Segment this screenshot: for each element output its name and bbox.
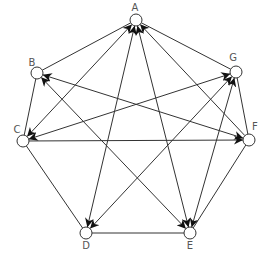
- edges-layer: [24, 23, 248, 233]
- node-circle: [31, 67, 43, 79]
- edge-c-to-f: [29, 140, 243, 141]
- node-circle: [80, 227, 92, 239]
- node-label: D: [82, 240, 90, 251]
- graph-diagram: ABCDEFG: [0, 0, 271, 260]
- node-circle: [184, 227, 196, 239]
- edge-b-e-bidirectional: [41, 77, 186, 228]
- edge-g-a: [141, 23, 230, 69]
- node-b: B: [29, 57, 43, 79]
- nodes-layer: ABCDEFG: [14, 2, 259, 251]
- node-g: G: [229, 52, 242, 78]
- node-e: E: [184, 227, 196, 251]
- node-circle: [230, 66, 242, 78]
- node-label: F: [252, 121, 258, 132]
- node-label: A: [132, 2, 139, 13]
- node-label: B: [29, 57, 36, 68]
- node-label: C: [14, 124, 21, 135]
- edge-a-d-bidirectional: [87, 26, 134, 227]
- node-circle: [130, 14, 142, 26]
- node-label: E: [187, 240, 193, 251]
- edge-c-d: [26, 146, 82, 228]
- node-a: A: [130, 2, 142, 26]
- edge-a-c-bidirectional: [27, 24, 132, 136]
- node-circle: [243, 134, 255, 146]
- edge-e-g-bidirectional: [192, 78, 235, 227]
- edge-e-f: [193, 145, 246, 228]
- node-c: C: [14, 124, 29, 147]
- edge-f-g: [237, 78, 248, 134]
- edge-a-b: [42, 23, 130, 70]
- edge-a-e-bidirectional: [137, 26, 188, 227]
- edge-c-g-bidirectional: [29, 74, 231, 139]
- node-f: F: [243, 121, 258, 146]
- edge-b-f-bidirectional: [43, 75, 244, 138]
- node-d: D: [80, 227, 92, 251]
- node-label: G: [229, 52, 237, 63]
- node-circle: [17, 135, 29, 147]
- edge-b-c: [24, 79, 36, 135]
